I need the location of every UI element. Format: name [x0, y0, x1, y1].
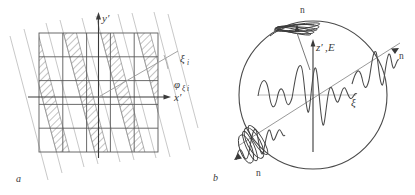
panel-a-label: a: [16, 173, 21, 184]
panel-b-normal-right: [391, 48, 399, 54]
panel-b-normal-label-top: n: [300, 5, 305, 15]
panel-a-x-axis-label: x′: [173, 91, 182, 103]
panel-a-xi-subscript: i: [187, 58, 189, 67]
panel-b-wave-lower-left: [236, 129, 285, 160]
panel-b: z′ , E ξ n n n b: [213, 5, 404, 183]
panel-a-y-axis-label: y′: [101, 12, 110, 24]
panel-b-normal-lower-left: [234, 153, 242, 160]
panel-a-xi-symbol: ξ: [180, 52, 185, 65]
figure-container: y′ x′ ξ i φ ξ i a: [0, 0, 415, 195]
panel-b-E-symbol: E: [327, 41, 335, 53]
panel-a: y′ x′ ξ i φ ξ i a: [0, 11, 220, 186]
panel-b-normal-label-right: n: [399, 51, 404, 61]
panel-a-phi-symbol: φ: [174, 78, 180, 90]
panel-a-phi-subscript: ξ i: [182, 84, 189, 93]
figure-svg: y′ x′ ξ i φ ξ i a: [0, 0, 415, 195]
panel-b-z-axis-label: z′ , E: [315, 41, 335, 53]
panel-b-normal-label-lower-left: n: [256, 168, 261, 178]
panel-b-label: b: [213, 172, 218, 183]
panel-b-z-symbol: z′: [315, 41, 323, 53]
panel-b-xi-axis-label: ξ: [351, 96, 356, 109]
